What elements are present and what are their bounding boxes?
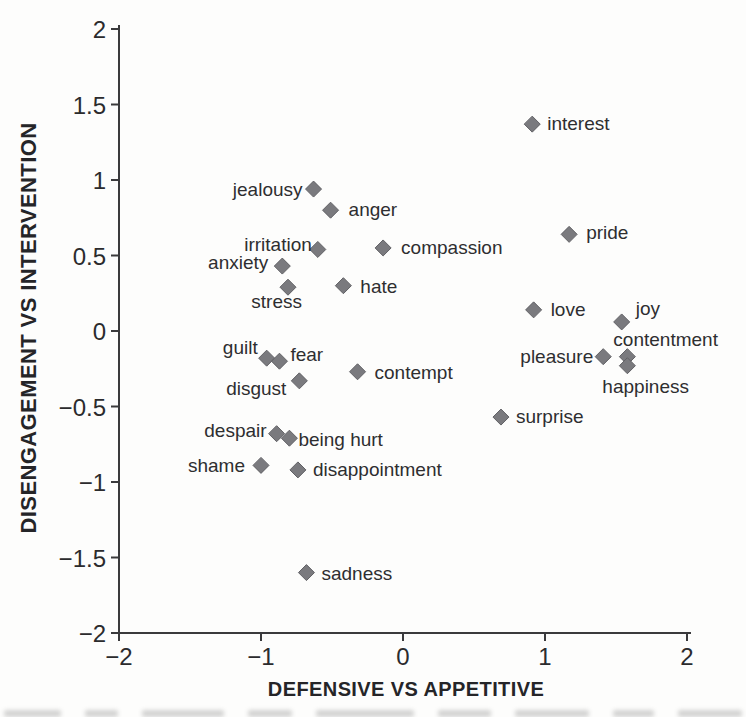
y-tick-label-2: 2	[93, 16, 106, 43]
point-guilt	[259, 350, 275, 366]
y-tick-label--0.5: −0.5	[59, 394, 106, 421]
x-tick-label-1: 1	[538, 643, 551, 670]
point-label-anger: anger	[349, 199, 398, 220]
point-label-anxiety: anxiety	[208, 252, 269, 273]
x-tick-label-0: 0	[396, 643, 409, 670]
point-disgust	[291, 373, 307, 389]
point-label-happiness: happiness	[602, 376, 689, 397]
point-label-jealousy: jealousy	[232, 179, 303, 200]
y-tick-label-0: 0	[93, 318, 106, 345]
y-tick-label-1.5: 1.5	[73, 92, 106, 119]
point-label-fear: fear	[290, 344, 323, 365]
point-label-despair: despair	[204, 420, 267, 441]
point-label-disgust: disgust	[226, 378, 287, 399]
point-label-hate: hate	[360, 276, 397, 297]
point-label-joy: joy	[635, 298, 661, 319]
y-tick-label--1.5: −1.5	[59, 545, 106, 572]
emotion-scatter-figure: −2−101221.510.50−0.5−1−1.5−2interestjeal…	[0, 0, 746, 717]
point-label-compassion: compassion	[401, 237, 502, 258]
point-interest	[524, 116, 540, 132]
x-tick-label-2: 2	[680, 643, 693, 670]
y-tick-label--1: −1	[79, 469, 106, 496]
point-label-guilt: guilt	[223, 337, 259, 358]
point-happiness	[619, 358, 635, 374]
point-anxiety	[274, 258, 290, 274]
point-label-shame: shame	[188, 455, 245, 476]
point-label-pride: pride	[586, 222, 628, 243]
point-contempt	[350, 364, 366, 380]
point-label-interest: interest	[547, 113, 610, 134]
point-label-surprise: surprise	[516, 406, 584, 427]
point-hate	[335, 278, 351, 294]
y-tick-label-0.5: 0.5	[73, 243, 106, 270]
x-tick-label--1: −1	[247, 643, 274, 670]
point-irritation	[310, 241, 326, 257]
point-jealousy	[306, 181, 322, 197]
point-compassion	[375, 240, 391, 256]
x-tick-label--2: −2	[105, 643, 132, 670]
point-joy	[614, 314, 630, 330]
point-anger	[323, 202, 339, 218]
point-label-sadness: sadness	[321, 563, 392, 584]
x-axis-title: DEFENSIVE VS APPETITIVE	[268, 678, 544, 700]
point-disappointment	[290, 462, 306, 478]
point-label-stress: stress	[251, 291, 302, 312]
point-shame	[253, 457, 269, 473]
y-axis-title: DISENGAGEMENT VS INTERVENTION	[16, 123, 41, 534]
point-label-being-hurt: being hurt	[298, 429, 383, 450]
point-label-love: love	[551, 299, 586, 320]
point-label-pleasure: pleasure	[520, 346, 593, 367]
point-love	[526, 302, 542, 318]
plot-area: −2−101221.510.50−0.5−1−1.5−2interestjeal…	[59, 16, 719, 670]
y-tick-label--2: −2	[79, 620, 106, 647]
point-label-contentment: contentment	[613, 329, 718, 350]
y-tick-label-1: 1	[93, 167, 106, 194]
point-label-contempt: contempt	[375, 362, 454, 383]
point-fear	[271, 353, 287, 369]
point-sadness	[298, 565, 314, 581]
point-pride	[561, 226, 577, 242]
point-label-disappointment: disappointment	[313, 459, 443, 480]
emotion-scatter-plot: −2−101221.510.50−0.5−1−1.5−2interestjeal…	[0, 0, 746, 717]
point-surprise	[493, 409, 509, 425]
point-pleasure	[595, 349, 611, 365]
